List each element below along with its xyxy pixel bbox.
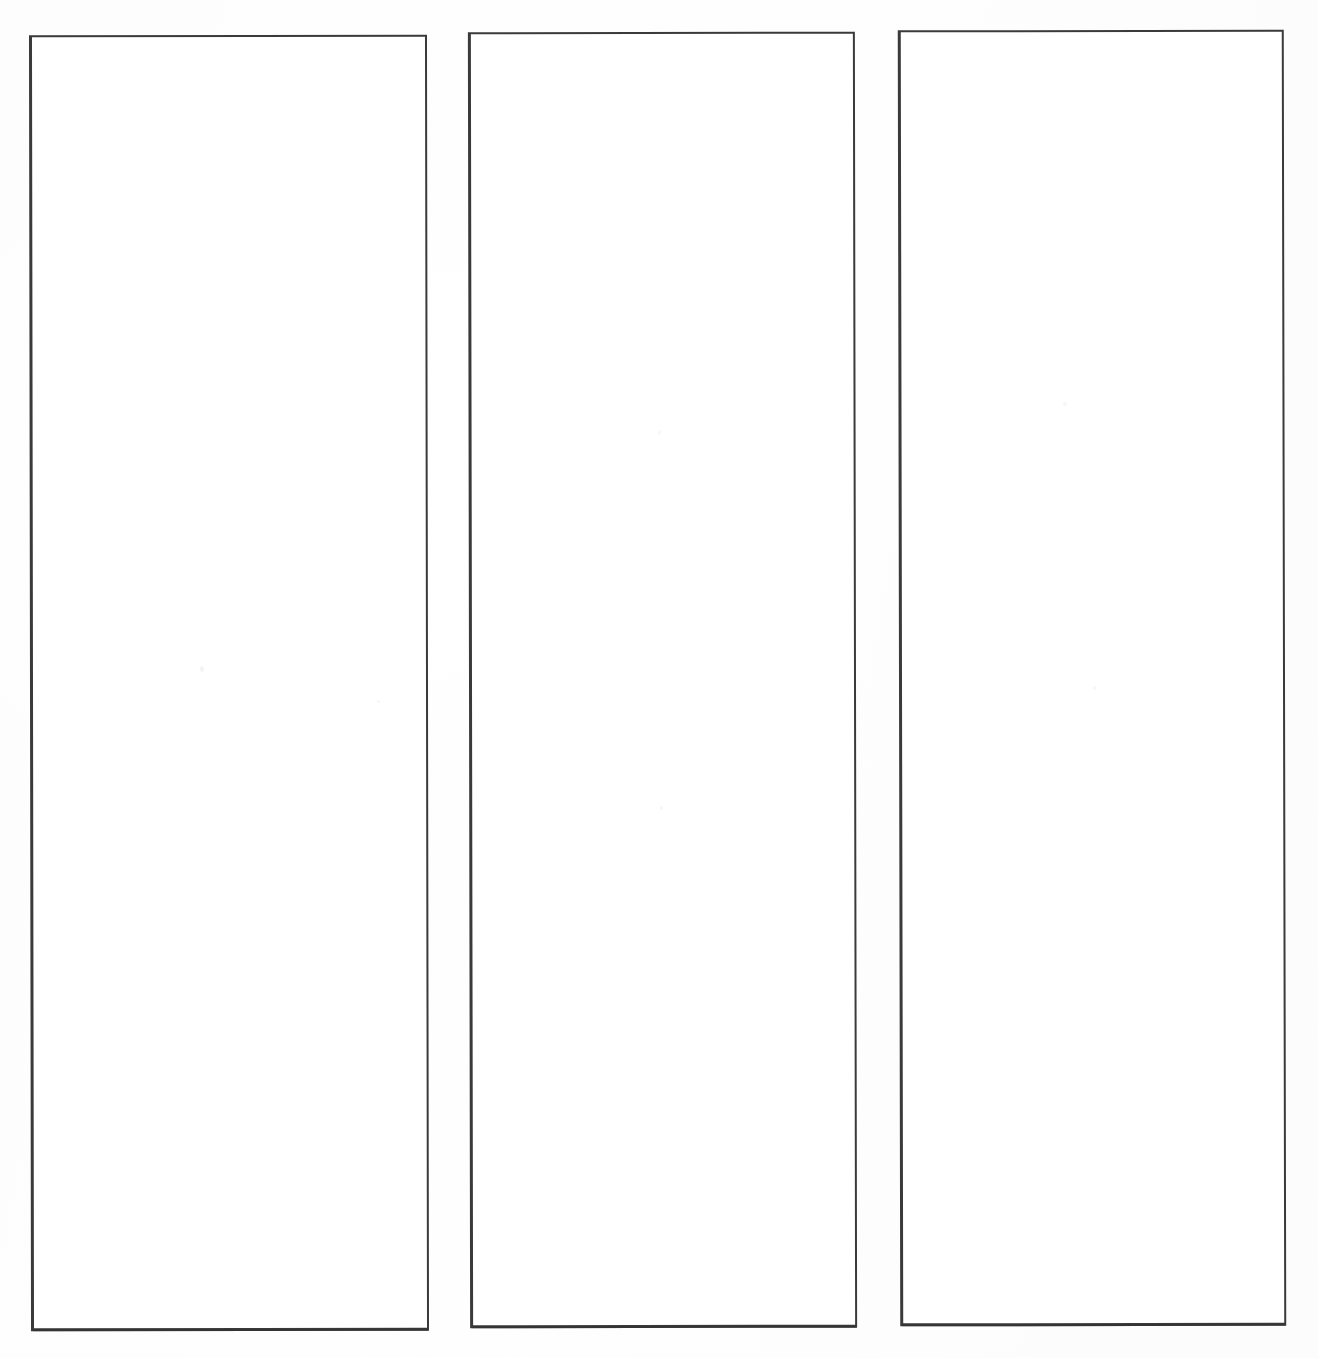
column-box-3-content	[901, 32, 1284, 1324]
page-canvas: Blank Three-Column Template	[0, 0, 1318, 1358]
column-box-3[interactable]	[898, 30, 1286, 1327]
column-box-1[interactable]	[29, 35, 429, 1332]
column-box-2-content	[471, 34, 855, 1326]
column-box-2[interactable]	[468, 32, 857, 1329]
column-box-1-content	[32, 37, 427, 1329]
